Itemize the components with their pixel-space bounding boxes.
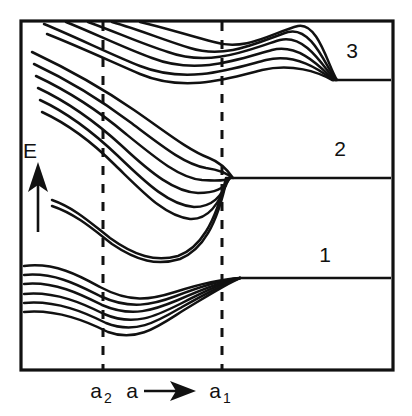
band-asymptotes-group — [233, 80, 391, 278]
tick-label-a1-base: a — [209, 379, 221, 402]
x-axis-tick-a1: a 1 — [209, 379, 231, 406]
x-axis-label: a — [126, 379, 138, 402]
tick-label-a1-subscript: 1 — [223, 390, 231, 406]
band-curve-band-2-lower-pair-b — [52, 178, 227, 262]
tick-label-a2-base: a — [90, 379, 102, 402]
energy-axis-arrow — [28, 162, 48, 232]
energy-band-diagram: E 3 2 1 a 2 a 1 a — [0, 0, 412, 416]
band-label-2: 2 — [334, 137, 346, 160]
band-curve-band-2-level-4 — [36, 76, 231, 181]
energy-axis-label: E — [23, 139, 37, 162]
band-curve-band-2-level-5 — [34, 64, 232, 178]
x-axis-arrow — [144, 381, 196, 401]
tick-label-a2-subscript: 2 — [104, 390, 112, 406]
band-label-1: 1 — [319, 243, 331, 266]
band-label-3: 3 — [346, 39, 358, 62]
diagram-canvas: E 3 2 1 a 2 a 1 a — [0, 0, 412, 416]
x-axis-tick-a2: a 2 — [90, 379, 112, 406]
